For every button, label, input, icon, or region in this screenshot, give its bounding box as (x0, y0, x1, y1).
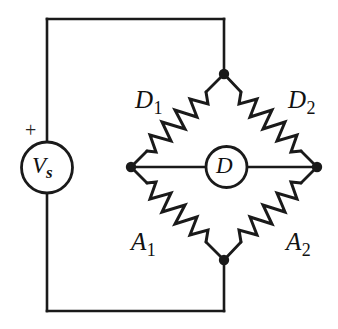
resistor-label-d2-main: D (288, 86, 306, 113)
circuit-diagram-canvas: Vs + D D1 D2 A1 A2 (0, 0, 338, 329)
resistor-label-a2-main: A (286, 228, 301, 255)
resistor-label-d1-subscript: 1 (154, 98, 163, 118)
resistor-label-a1-subscript: 1 (147, 240, 156, 260)
polarity-plus-marker: + (25, 119, 36, 142)
resistor-label-d1-main: D (135, 86, 153, 113)
voltage-source-label: Vs (32, 153, 53, 183)
node-dot-left (126, 162, 136, 172)
resistor-label-a2-subscript: 2 (302, 240, 311, 260)
resistor-label-a1: A1 (131, 228, 156, 261)
voltage-source-label-subscript: s (46, 163, 53, 182)
resistor-a1-zigzag (147, 182, 208, 242)
voltage-source-label-main: V (32, 153, 46, 178)
resistor-label-a2: A2 (286, 228, 311, 261)
node-dot-right (312, 162, 322, 172)
resistor-label-d2: D2 (288, 86, 316, 119)
resistor-label-d1: D1 (135, 86, 163, 119)
detector-label: D (216, 153, 233, 179)
resistor-label-a1-main: A (131, 228, 146, 255)
resistor-label-d2-subscript: 2 (307, 98, 316, 118)
node-dot-bottom (219, 255, 229, 265)
node-dot-top (219, 69, 229, 79)
